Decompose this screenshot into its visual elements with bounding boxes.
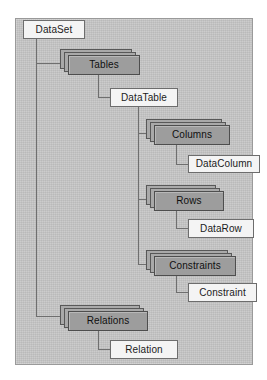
node-relations-label: Relations [87,316,130,326]
node-constraints-front: Constraints [154,256,236,276]
edge-dataset-relations [36,316,62,317]
node-tables-front: Tables [68,55,140,75]
node-datatable[interactable]: DataTable [110,88,178,107]
node-relations[interactable]: Relations [60,305,148,331]
node-rows[interactable]: Rows [146,185,224,211]
node-constraints[interactable]: Constraints [146,250,236,276]
node-columns-front: Columns [154,125,230,145]
node-relation-label: Relation [125,345,163,355]
node-rows-label: Rows [176,196,201,206]
node-dataset-label: DataSet [36,25,73,35]
node-datarow-label: DataRow [200,224,242,234]
node-relations-front: Relations [68,311,148,331]
edge-datatable-trunk [138,107,139,264]
node-dataset[interactable]: DataSet [23,20,85,39]
node-datacolumn-label: DataColumn [196,159,253,169]
node-rows-front: Rows [154,191,224,211]
node-columns[interactable]: Columns [146,119,230,145]
diagram-canvas: DataSet Tables DataTable Columns DataCol… [0,0,267,380]
node-constraint-label: Constraint [199,288,246,298]
edge-dataset-trunk [36,39,37,316]
node-datarow[interactable]: DataRow [188,219,254,238]
node-constraint[interactable]: Constraint [188,283,257,302]
node-columns-label: Columns [172,130,212,140]
edge-dataset-tables [36,63,62,64]
node-datacolumn[interactable]: DataColumn [188,155,260,173]
node-tables[interactable]: Tables [60,49,140,75]
node-tables-label: Tables [89,60,119,70]
node-datatable-label: DataTable [121,93,167,103]
node-relation[interactable]: Relation [110,340,178,359]
node-constraints-label: Constraints [169,261,221,271]
